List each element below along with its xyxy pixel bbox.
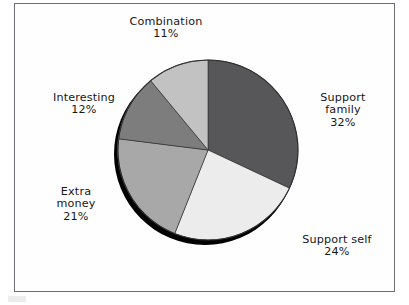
pie-label-extra-money-percent: 21% (30, 211, 122, 223)
pie-label-combination-percent: 11% (101, 28, 231, 40)
pie-label-interesting-percent: 12% (28, 104, 140, 116)
figure-container: Combination 11% Support family 32% Inter… (0, 0, 409, 305)
pie-label-support-self: Support self 24% (281, 234, 393, 259)
pie-label-interesting: Interesting 12% (28, 92, 140, 117)
pie-chart-canvas (0, 0, 409, 305)
pie-label-support-self-percent: 24% (281, 246, 393, 258)
pie-label-support-family-percent: 32% (300, 117, 386, 129)
pie-chart: Combination 11% Support family 32% Inter… (0, 0, 409, 305)
pie-label-extra-money: Extra money 21% (30, 186, 122, 223)
pie-label-support-family-name-line2: family (300, 104, 386, 116)
pie-label-combination: Combination 11% (101, 16, 231, 41)
scan-artifact (8, 296, 26, 302)
pie-label-support-family: Support family 32% (300, 92, 386, 129)
pie-label-extra-money-name-line2: money (30, 198, 122, 210)
